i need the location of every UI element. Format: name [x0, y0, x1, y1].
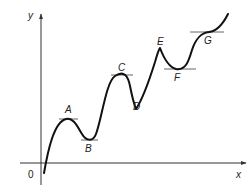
x-axis-label: x [235, 169, 242, 180]
function-curve [44, 14, 228, 173]
point-label-C: C [118, 62, 126, 73]
point-label-D: D [133, 101, 140, 112]
function-graph: y x 0 A B C D E F G [0, 0, 251, 195]
y-axis-label: y [27, 10, 34, 21]
point-label-F: F [174, 72, 181, 83]
point-label-E: E [157, 36, 164, 47]
tangent-lines [59, 32, 224, 140]
point-label-G: G [204, 35, 212, 46]
point-label-A: A [64, 104, 72, 115]
point-label-B: B [85, 143, 92, 154]
origin-label: 0 [28, 169, 34, 180]
